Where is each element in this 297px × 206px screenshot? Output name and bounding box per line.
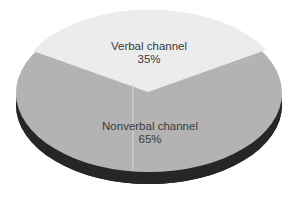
pie-chart bbox=[0, 0, 297, 206]
verbal-label: Verbal channel 35% bbox=[99, 40, 199, 66]
nonverbal-percent: 65% bbox=[90, 133, 210, 146]
verbal-name: Verbal channel bbox=[99, 40, 199, 53]
nonverbal-label: Nonverbal channel 65% bbox=[90, 120, 210, 146]
nonverbal-name: Nonverbal channel bbox=[90, 120, 210, 133]
verbal-percent: 35% bbox=[99, 53, 199, 66]
